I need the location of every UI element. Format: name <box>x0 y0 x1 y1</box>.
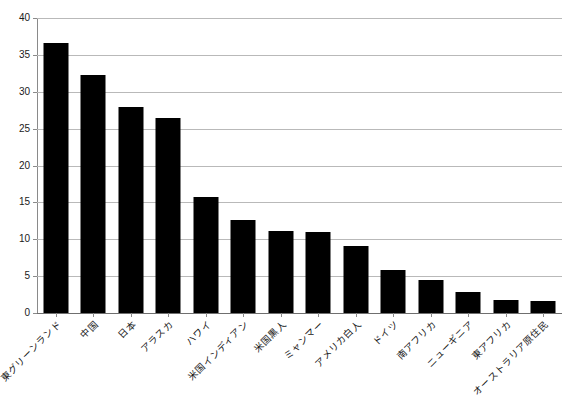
bar <box>43 43 68 313</box>
bar-slot <box>337 18 375 313</box>
bar <box>456 292 481 313</box>
bar-slot <box>187 18 225 313</box>
bar <box>81 75 106 313</box>
bar <box>156 118 181 313</box>
bar-slot <box>487 18 525 313</box>
bar <box>193 197 218 313</box>
bar-slot <box>112 18 150 313</box>
bar-slot <box>150 18 188 313</box>
category-label: 東グリーンランド <box>0 319 62 383</box>
bar <box>418 280 443 313</box>
y-axis-tick-label: 35 <box>19 50 30 60</box>
category-axis-labels: 東グリーンランド中国日本アラスカハワイ米国インディアン米国黒人ミャンマーアメリカ… <box>37 313 562 416</box>
category-label: 日本 <box>116 319 137 340</box>
bar-slot <box>300 18 338 313</box>
category-label: 中国 <box>79 319 100 340</box>
bar-slot <box>525 18 563 313</box>
y-axis-tick-label: 15 <box>19 197 30 207</box>
bar-slot <box>375 18 413 313</box>
y-axis-tick-label: 40 <box>19 13 30 23</box>
category-label: 米国黒人 <box>252 319 287 354</box>
y-axis-tick-label: 10 <box>19 234 30 244</box>
bar-slot <box>37 18 75 313</box>
y-axis-tick-label: 25 <box>19 124 30 134</box>
bars-layer <box>37 18 562 313</box>
category-label: オーストラリア原住民 <box>472 319 550 397</box>
y-axis-tick-label: 20 <box>19 161 30 171</box>
bar-slot <box>225 18 263 313</box>
y-axis-tick-label: 0 <box>24 308 30 318</box>
y-axis-tick-label: 5 <box>24 271 30 281</box>
bar-slot <box>412 18 450 313</box>
bar <box>231 220 256 313</box>
bar <box>343 246 368 313</box>
bar <box>306 232 331 313</box>
category-label: ハワイ <box>184 319 212 347</box>
bar <box>118 107 143 314</box>
bar <box>381 270 406 314</box>
bar-slot <box>450 18 488 313</box>
category-label: ドイツ <box>372 319 400 347</box>
bar-slot <box>75 18 113 313</box>
bar <box>493 300 518 313</box>
y-axis-tick-label: 30 <box>19 87 30 97</box>
bar-chart: 0510152025303540 東グリーンランド中国日本アラスカハワイ米国イン… <box>0 0 568 416</box>
bar <box>268 231 293 313</box>
bar-slot <box>262 18 300 313</box>
bar <box>531 301 556 313</box>
category-label: アラスカ <box>140 319 175 354</box>
